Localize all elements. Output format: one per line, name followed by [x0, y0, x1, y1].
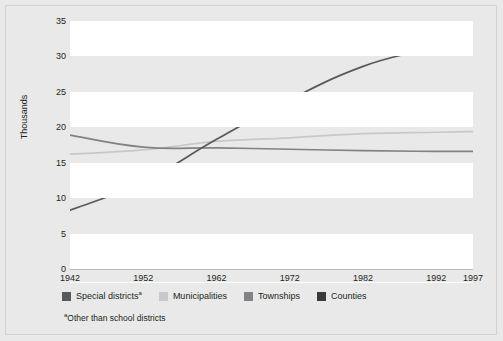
chart-legend: Special districtsaMunicipalitiesTownship… [62, 291, 383, 301]
legend-swatch-icon [159, 292, 168, 301]
background-band [70, 163, 473, 198]
legend-item-label: Counties [331, 291, 367, 301]
background-band [70, 234, 473, 269]
legend-swatch-icon [244, 292, 253, 301]
y-axis-tick-label: 10 [22, 194, 66, 203]
legend-item[interactable]: Counties [317, 291, 367, 301]
legend-separator [70, 282, 473, 283]
legend-swatch-icon [62, 292, 71, 301]
footnote-text: Other than school districts [67, 313, 165, 323]
x-axis-ticks: 1942195219621972198219921997 [70, 273, 473, 287]
legend-item[interactable]: Municipalities [159, 291, 227, 301]
y-axis-tick-label: 15 [22, 158, 66, 167]
chart-figure: 35302520151050 Thousands 194219521962197… [0, 0, 503, 341]
plot-area [70, 21, 473, 269]
legend-swatch-icon [317, 292, 326, 301]
background-band [70, 92, 473, 127]
legend-item[interactable]: Special districtsa [62, 291, 142, 301]
y-axis-tick-label: 35 [22, 17, 66, 26]
y-axis-label: Thousands [19, 77, 29, 157]
x-axis-line [70, 269, 473, 270]
legend-item[interactable]: Townships [244, 291, 300, 301]
background-band [70, 21, 473, 56]
chart-footnote: aOther than school districts [64, 313, 166, 323]
data-line-townships [70, 135, 473, 151]
legend-item-label: Municipalities [173, 291, 227, 301]
y-axis-tick-label: 30 [22, 52, 66, 61]
legend-item-label: Townships [258, 291, 300, 301]
y-axis-tick-label: 5 [22, 229, 66, 238]
legend-item-label: Special districtsa [76, 291, 142, 301]
data-lines [70, 21, 473, 269]
legend-footnote-marker: a [139, 290, 142, 296]
